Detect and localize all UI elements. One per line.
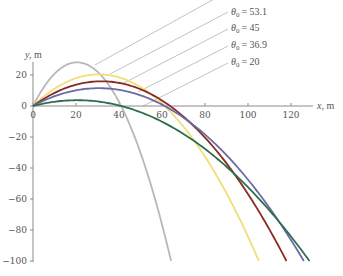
- y-tick-label: −20: [8, 132, 27, 142]
- y-tick-label: −40: [8, 163, 27, 173]
- x-tick-label: 100: [239, 110, 256, 120]
- y-tick-label: −80: [8, 225, 27, 235]
- leader-line: [143, 63, 228, 106]
- x-tick-label: 120: [282, 110, 299, 120]
- legend: θ0= 53.1θ0= 45θ0= 36.9θ0= 20: [231, 6, 267, 69]
- y-tick-label: 20: [16, 70, 28, 80]
- y-tick-label: −100: [2, 256, 27, 266]
- leader-line: [95, 0, 216, 65]
- x-tick-label: 60: [156, 110, 168, 120]
- y-axis-label: y, m: [24, 49, 42, 60]
- trajectory-chart: 020406080100120 200−20−40−60−80−100 x, m…: [0, 0, 343, 276]
- trajectory-curve: [33, 62, 171, 261]
- y-tick-label: 0: [21, 101, 27, 111]
- legend-item: θ0= 20: [231, 56, 260, 69]
- trajectory-curve: [33, 100, 309, 261]
- legend-item: θ0= 45: [231, 22, 260, 35]
- x-tick-label: 80: [199, 110, 211, 120]
- leader-line: [110, 12, 228, 74]
- trajectory-curve: [33, 81, 286, 261]
- legend-item: θ0= 53.1: [231, 6, 267, 19]
- leader-line: [124, 29, 228, 83]
- legend-item: θ0= 36.9: [231, 39, 267, 52]
- x-tick-label: 20: [70, 110, 82, 120]
- x-tick-label: 0: [30, 110, 36, 120]
- y-tick-label: −60: [8, 194, 27, 204]
- x-axis-label: x, m: [316, 100, 334, 111]
- trajectory-curves: [33, 62, 309, 261]
- y-ticks: 200−20−40−60−80−100: [2, 70, 33, 266]
